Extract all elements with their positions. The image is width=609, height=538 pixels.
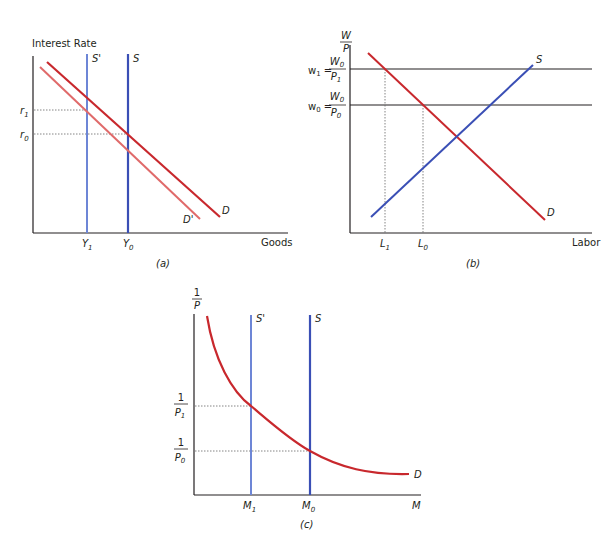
panel-b-w1-den: P1 [331,71,342,84]
panel-c-tick-p0-num: 1 [178,437,184,448]
panel-c-tick-p1-den: P1 [175,407,186,420]
panel-a-tick-r0: r0 [20,129,29,143]
panel-c-y-label-den: P [194,300,201,311]
panel-b-y-label-den: P [343,43,350,54]
figure: Interest Rate S' S D D' r1 r0 Y1 Y0 Good… [0,0,609,538]
panel-b-label-d: D [547,207,555,218]
panel-b-label-s: S [536,54,543,65]
panel-b-tick-l1: L1 [380,238,390,252]
panel-a-label-s: S [133,53,140,64]
panel-a-label-s-shift: S' [92,53,101,64]
panel-a-tick-y0: Y0 [123,238,134,252]
panel-b-w1-label: w1 = [308,65,332,78]
panel-c-tick-m0: M0 [302,500,316,514]
panel-a-label-d-shift: D' [183,214,193,225]
panel-a-x-label: Goods [261,237,293,248]
panel-c-label-d: D [414,469,422,480]
panel-c: 1 P S' S D 1 P1 1 P0 M1 M0 M (c) [174,287,422,530]
panel-b-caption: (b) [466,258,480,269]
panel-c-demand-curve [207,316,409,474]
panel-a-y-label: Interest Rate [32,38,97,49]
panel-a-demand-shifted-line [40,67,200,219]
panel-b-tick-l0: L0 [418,238,429,252]
panel-b-w0-den: P0 [331,107,342,120]
panel-b-y-label-num: W [341,30,352,41]
panel-b-w0-label: w0 = [308,101,332,114]
panel-a-label-d: D [222,205,230,216]
panel-a-caption: (a) [156,258,170,269]
panel-b-supply-line [371,65,533,217]
panel-a-demand-line [47,62,220,217]
panel-c-y-label-num: 1 [194,287,200,298]
panel-c-x-label: M [412,500,421,511]
panel-b-x-label: Labor [572,237,601,248]
panel-c-tick-m1: M1 [243,500,256,514]
panel-c-label-s-shift: S' [256,313,265,324]
panel-c-caption: (c) [300,519,313,530]
panel-a-tick-y1: Y1 [82,238,93,252]
panel-c-tick-p1-num: 1 [178,392,184,403]
panel-c-tick-p0-den: P0 [175,452,186,465]
panel-c-label-s: S [315,313,322,324]
panel-b: W P S D w1 = W0 P1 w0 = W0 P0 L1 L0 Labo… [308,30,601,269]
panel-a-tick-r1: r1 [20,105,29,119]
panel-a: Interest Rate S' S D D' r1 r0 Y1 Y0 Good… [20,38,293,269]
